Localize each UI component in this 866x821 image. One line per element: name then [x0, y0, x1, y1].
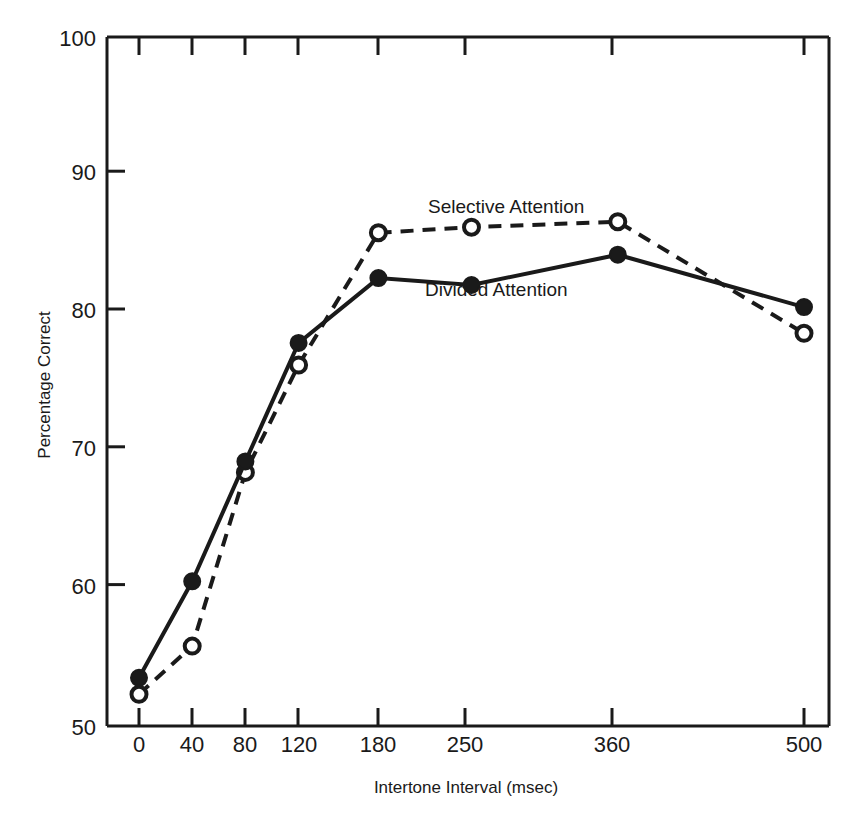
x-tick-labels: 0 40 80 120 180 250 360 500 [133, 732, 822, 757]
series-label-selective-attention: Selective Attention [428, 196, 584, 217]
x-tick-label-180: 180 [360, 732, 397, 757]
y-tick-label-60: 60 [72, 574, 96, 599]
x-tick-label-250: 250 [447, 732, 484, 757]
data-point [131, 670, 147, 686]
series-divided-attention [131, 247, 812, 686]
chart-figure: 100 90 80 70 60 50 0 40 80 120 180 250 3… [0, 0, 866, 821]
x-tick-label-80: 80 [233, 732, 257, 757]
data-point [291, 358, 306, 373]
x-tick-label-0: 0 [133, 732, 145, 757]
x-tick-label-500: 500 [786, 732, 823, 757]
x-tick-label-40: 40 [180, 732, 204, 757]
series-label-divided-attention: Divided Attention [425, 279, 568, 300]
y-tick-labels: 100 90 80 70 60 50 [59, 26, 96, 740]
data-point [184, 573, 200, 589]
y-tick-label-80: 80 [72, 298, 96, 323]
x-tick-label-360: 360 [594, 732, 631, 757]
y-tick-label-90: 90 [72, 160, 96, 185]
x-axis-ticks [139, 37, 804, 726]
data-point [797, 326, 812, 341]
data-point [371, 225, 386, 240]
data-point [796, 299, 812, 315]
line-chart-svg: 100 90 80 70 60 50 0 40 80 120 180 250 3… [0, 0, 866, 821]
data-point [610, 247, 626, 263]
y-tick-label-50: 50 [72, 715, 96, 740]
x-tick-label-120: 120 [281, 732, 318, 757]
y-tick-label-70: 70 [72, 436, 96, 461]
y-tick-label-100: 100 [59, 26, 96, 51]
plot-frame [107, 37, 829, 726]
data-point [464, 220, 479, 235]
data-point [132, 687, 147, 702]
data-point [185, 639, 200, 654]
data-point [237, 453, 253, 469]
x-axis-title: Intertone Interval (msec) [374, 778, 558, 797]
y-axis-ticks [107, 171, 125, 584]
y-axis-title: Percentage Correct [35, 311, 54, 459]
data-point [370, 270, 386, 286]
data-point [291, 335, 307, 351]
data-point [610, 214, 625, 229]
